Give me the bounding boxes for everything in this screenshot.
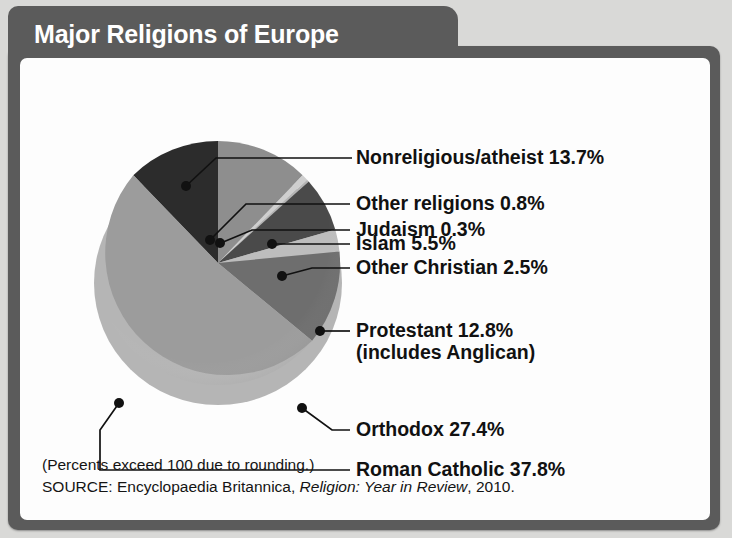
label-other-religions: Other religions 0.8% — [356, 192, 545, 214]
label-orthodox: Orthodox 27.4% — [356, 418, 504, 440]
pie-slices — [96, 141, 340, 385]
title-tab: Major Religions of Europe — [8, 6, 458, 58]
label-other-christian: Other Christian 2.5% — [356, 256, 548, 278]
rounding-note: (Percents exceed 100 due to rounding.) — [42, 454, 515, 476]
footnotes: (Percents exceed 100 due to rounding.) S… — [42, 454, 515, 499]
chart-panel: Nonreligious/atheist 13.7% Other religio… — [20, 58, 710, 520]
pie-chart-svg — [20, 58, 710, 520]
source-title: Religion: Year in Review — [300, 478, 468, 495]
label-protestant-sub: (includes Anglican) — [356, 341, 535, 363]
label-protestant: Protestant 12.8% (includes Anglican) — [356, 319, 535, 364]
infographic-root: Major Religions of Europe — [0, 0, 732, 538]
source-prefix: SOURCE: Encyclopaedia Britannica, — [42, 478, 300, 495]
pie-chart: Nonreligious/atheist 13.7% Other religio… — [20, 58, 710, 520]
label-nonreligious: Nonreligious/atheist 13.7% — [356, 146, 604, 168]
source-note: SOURCE: Encyclopaedia Britannica, Religi… — [42, 476, 515, 498]
page-title: Major Religions of Europe — [34, 20, 339, 49]
label-protestant-main: Protestant 12.8% — [356, 319, 513, 341]
source-suffix: , 2010. — [467, 478, 514, 495]
label-islam: Islam 5.5% — [356, 232, 456, 254]
